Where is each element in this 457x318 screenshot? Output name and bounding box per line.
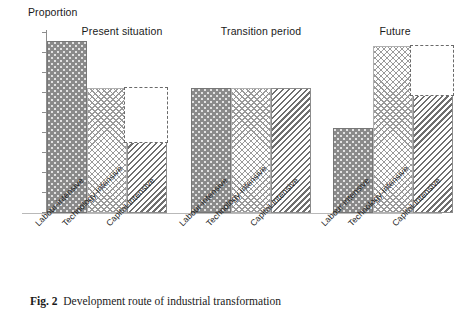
y-axis-label: Proportion bbox=[28, 6, 77, 18]
figure-development-route: Proportion Present situation Labour-inte… bbox=[0, 0, 457, 318]
x-axis-baseline bbox=[22, 213, 442, 214]
figure-number: Fig. 2 bbox=[30, 295, 57, 307]
group-title-transition-period: Transition period bbox=[196, 25, 326, 37]
figure-caption: Fig. 2 Development route of industrial t… bbox=[30, 295, 281, 307]
chart-plot-area: Proportion Present situation Labour-inte… bbox=[0, 0, 457, 285]
projection-box-present-capital-intensive bbox=[124, 87, 168, 143]
y-axis-tick bbox=[42, 32, 47, 33]
group-title-future: Future bbox=[340, 25, 450, 37]
figure-caption-text: Development route of industrial transfor… bbox=[63, 295, 281, 307]
projection-box-future-capital-intensive bbox=[410, 45, 454, 96]
group-title-present-situation: Present situation bbox=[57, 25, 187, 37]
